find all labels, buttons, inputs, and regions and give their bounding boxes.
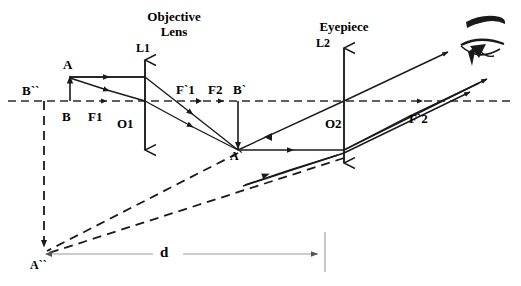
ray-diagram-svg — [0, 0, 521, 286]
label-L1: L1 — [136, 42, 150, 55]
label-Aprime: A` — [230, 150, 243, 163]
ray-lower-eyepiece — [243, 92, 470, 186]
label-O2: O2 — [325, 117, 342, 131]
marker-F1 — [101, 99, 107, 104]
label-Bdoubleprime: B`` — [22, 84, 39, 98]
optics-diagram-canvas: Objective Lens Eyepiece L1 L2 A B F1 O1 … — [0, 0, 521, 286]
label-dimension-d: d — [160, 245, 168, 261]
marker-Fprime1 — [196, 98, 202, 104]
objective-lens-title-line2: Lens — [126, 25, 222, 39]
label-Fprime1: F`1 — [176, 83, 195, 97]
dimension-line-d — [45, 232, 325, 272]
label-A: A — [63, 58, 72, 72]
ray-parallel-eyepiece — [238, 79, 487, 150]
objective-lens-title-line1: Objective — [126, 10, 222, 24]
ray-direction-marker-left — [264, 133, 272, 141]
eyepiece-title: Eyepiece — [299, 20, 389, 34]
eye-icon — [461, 16, 505, 66]
label-Fprime2: F`2 — [409, 112, 428, 126]
label-F1: F1 — [88, 110, 102, 124]
marker-Fprime2 — [417, 99, 423, 104]
label-L2: L2 — [316, 37, 330, 50]
label-B: B — [62, 110, 71, 124]
label-Bprime: B` — [233, 83, 246, 97]
label-F2: F2 — [208, 83, 222, 97]
label-Adoubleprime: A`` — [30, 259, 47, 272]
label-O1: O1 — [117, 117, 134, 131]
marker-F2 — [218, 99, 224, 104]
